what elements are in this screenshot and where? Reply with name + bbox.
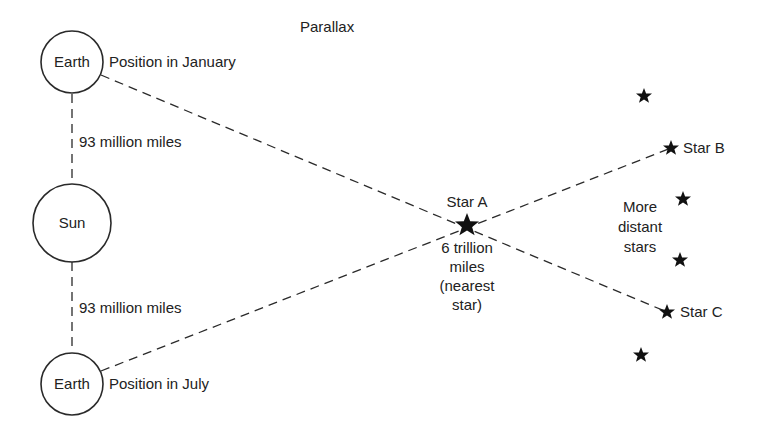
star-b: Star B <box>663 139 725 156</box>
earth-january-caption: Position in January <box>109 53 236 70</box>
earth-january: Earth Position in January <box>41 31 236 93</box>
parallax-diagram: Parallax Earth Position in January 93 mi… <box>0 0 769 438</box>
distant-stars-label-line-3: stars <box>624 238 657 255</box>
star-b-icon <box>663 140 679 155</box>
star-a-distance-line-4: star) <box>452 296 482 313</box>
earth-july-caption: Position in July <box>109 375 210 392</box>
distance-label-top: 93 million miles <box>79 133 182 150</box>
sun-label: Sun <box>59 214 86 231</box>
star-a-distance-line-2: miles <box>449 258 484 275</box>
star-c-label: Star C <box>680 303 723 320</box>
star-a: Star A 6 trillion miles (nearest star) <box>439 193 495 313</box>
sun: Sun <box>33 184 111 262</box>
star-a-label: Star A <box>447 193 488 210</box>
distant-stars-label-line-1: More <box>623 198 657 215</box>
distant-stars-label: More distant stars <box>618 198 663 255</box>
earth-july-label: Earth <box>54 375 90 392</box>
star-c-icon <box>659 304 675 319</box>
star-c: Star C <box>659 303 723 320</box>
distant-star-icon <box>636 88 652 103</box>
distant-star-icon <box>672 252 688 267</box>
earth-january-label: Earth <box>54 53 90 70</box>
diagram-title: Parallax <box>300 18 355 35</box>
distance-label-bottom: 93 million miles <box>79 299 182 316</box>
distant-star-icon <box>633 347 649 362</box>
star-a-distance-line-3: (nearest <box>439 277 495 294</box>
earth-july: Earth Position in July <box>41 353 210 415</box>
diagram-canvas: Parallax Earth Position in January 93 mi… <box>0 0 769 438</box>
distant-star-icon <box>675 191 691 206</box>
sightline-july-to-star-b <box>101 148 671 371</box>
sightline-january-to-star-c <box>101 75 667 312</box>
star-b-label: Star B <box>683 139 725 156</box>
distant-stars-label-line-2: distant <box>618 218 663 235</box>
star-a-distance-line-1: 6 trillion <box>441 239 493 256</box>
